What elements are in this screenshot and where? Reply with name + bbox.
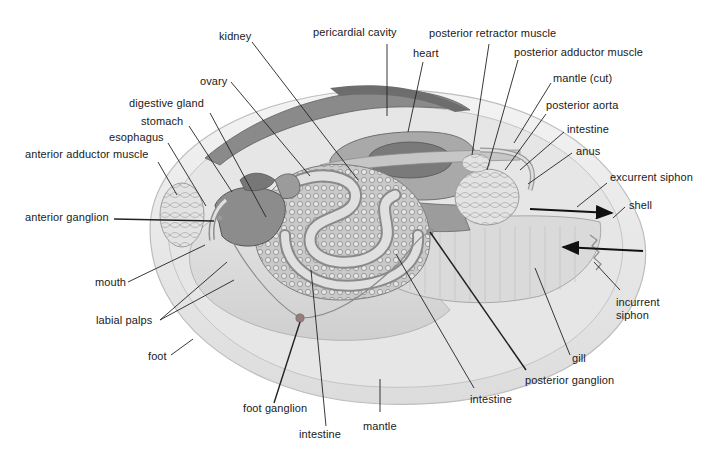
label-mouth: mouth bbox=[95, 276, 126, 289]
label-mantle: mantle bbox=[363, 420, 397, 433]
label-labial-palps: labial palps bbox=[96, 314, 152, 327]
label-intestine-mid: intestine bbox=[470, 393, 512, 406]
label-intestine-bottom: intestine bbox=[299, 428, 341, 441]
label-posterior-aorta: posterior aorta bbox=[546, 99, 618, 112]
label-shell: shell bbox=[629, 199, 652, 212]
label-ovary: ovary bbox=[200, 75, 227, 88]
label-foot: foot bbox=[148, 350, 167, 363]
label-mantle-cut: mantle (cut) bbox=[553, 72, 612, 85]
label-anus: anus bbox=[576, 145, 600, 158]
label-heart: heart bbox=[413, 47, 439, 60]
label-anterior-ganglion: anterior ganglion bbox=[25, 211, 109, 224]
label-kidney: kidney bbox=[219, 30, 251, 43]
label-pericardial-cavity: pericardial cavity bbox=[313, 26, 397, 39]
label-esophagus: esophagus bbox=[109, 131, 164, 144]
label-stomach: stomach bbox=[141, 115, 183, 128]
label-foot-ganglion: foot ganglion bbox=[243, 402, 307, 415]
label-intestine-top: intestine bbox=[567, 123, 609, 136]
clam-illustration bbox=[0, 0, 721, 460]
label-digestive-gland: digestive gland bbox=[129, 97, 204, 110]
label-posterior-ganglion: posterior ganglion bbox=[525, 374, 614, 387]
label-posterior-retractor-muscle: posterior retractor muscle bbox=[429, 27, 556, 40]
label-posterior-adductor-muscle: posterior adductor muscle bbox=[514, 46, 643, 59]
label-anterior-adductor-muscle: anterior adductor muscle bbox=[25, 148, 148, 161]
label-incurrent-siphon: incurrent siphon bbox=[616, 296, 660, 322]
label-gill: gill bbox=[572, 352, 586, 365]
clam-anatomy-diagram: kidney pericardial cavity posterior retr… bbox=[0, 0, 721, 460]
label-excurrent-siphon: excurrent siphon bbox=[610, 171, 693, 184]
